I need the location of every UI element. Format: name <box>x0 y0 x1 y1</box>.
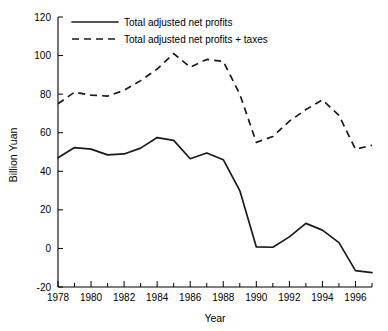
x-tick-label: 1994 <box>311 292 334 303</box>
line-chart: -20020406080100120 197819801982198419861… <box>0 0 388 331</box>
x-axis-title: Year <box>204 312 226 324</box>
y-tick-label: 0 <box>45 243 51 254</box>
y-tick-label: 120 <box>34 12 51 23</box>
x-tick-label: 1992 <box>278 292 301 303</box>
x-tick-label: 1984 <box>146 292 169 303</box>
x-tick-label: 1990 <box>245 292 268 303</box>
x-tick-label: 1980 <box>80 292 103 303</box>
y-tick-label: -20 <box>37 282 52 293</box>
legend-label-1: Total adjusted net profits <box>124 17 232 28</box>
y-tick-label: 100 <box>34 50 51 61</box>
x-tick-label: 1978 <box>47 292 70 303</box>
legend-label-2: Total adjusted net profits + taxes <box>124 34 268 45</box>
y-tick-label: 20 <box>40 204 52 215</box>
x-tick-label: 1982 <box>113 292 136 303</box>
x-tick-label: 1986 <box>179 292 202 303</box>
x-tick-label: 1988 <box>212 292 235 303</box>
y-tick-label: 80 <box>40 89 52 100</box>
y-axis-title: Billion Yuan <box>7 127 19 182</box>
chart-figure: -20020406080100120 197819801982198419861… <box>0 0 388 331</box>
y-tick-label: 40 <box>40 166 52 177</box>
x-tick-label: 1996 <box>344 292 367 303</box>
y-tick-label: 60 <box>40 127 52 138</box>
